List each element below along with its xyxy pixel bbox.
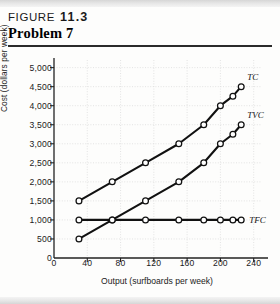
figure-number: 11.3	[60, 10, 88, 24]
series-label-tc: TC	[247, 72, 259, 82]
series-label-tvc: TVC	[247, 110, 265, 120]
figure-header: FIGURE 11.3 Problem 7	[8, 10, 272, 47]
figure-word: FIGURE	[8, 11, 55, 23]
plot-svg: TCTVCTFC	[0, 52, 280, 298]
page-title: Problem 7	[8, 25, 272, 42]
series-label-tfc: TFC	[249, 215, 267, 225]
header-divider	[8, 45, 272, 47]
plot-area: TCTVCTFC	[0, 52, 280, 302]
cost-curves-chart: Cost (dollars per week) 05001,0001,5002,…	[0, 52, 280, 298]
scan-edge-top	[0, 0, 280, 7]
figure-caption: FIGURE 11.3	[8, 10, 272, 24]
figure-page: FIGURE 11.3 Problem 7 Cost (dollars per …	[0, 0, 280, 304]
